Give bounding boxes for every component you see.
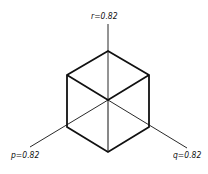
q-axis [108, 100, 187, 148]
r-axis-label: r=0.82 [91, 11, 118, 21]
q-axis-label: q=0.82 [173, 150, 201, 160]
p-axis [30, 100, 108, 147]
isometric-cube-diagram [0, 0, 208, 174]
p-axis-label: p=0.82 [11, 150, 39, 160]
